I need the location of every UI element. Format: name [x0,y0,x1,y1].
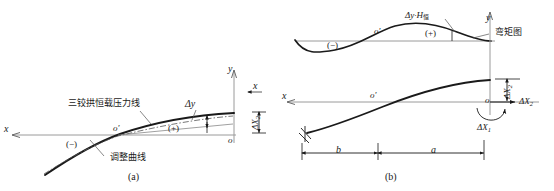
moment-product-subscript: 恒 [423,13,429,20]
moment-diagram-leader [473,34,489,38]
panel-b-delta-x1-text: ΔX [477,122,488,132]
left-support-symbol [299,126,311,143]
panel-b-delta-x1-subscript: 1 [488,126,491,133]
panel-b-caption: (b) [385,172,397,182]
moment-diagram-label: 弯矩图 [495,28,522,37]
adjust-curve-label: 调整曲线 [110,153,146,162]
delta-y-label: Δy [185,99,195,109]
panel-a-hinge-label: o' [113,124,119,133]
panel-a-delta-x2-subscript: 2 [254,116,261,119]
panel-b-arch-curve [307,80,490,133]
panel-b-delta-x2-text: ΔX [519,96,530,106]
panel-a-delta-x2-text: ΔX [250,119,260,130]
panel-a-x-axis-label-right: x [253,81,257,91]
panel-a-graphics [0,0,277,191]
moment-product-text: Δy·H [405,10,423,20]
panel-b-delta-x2-subscript: 2 [530,100,533,107]
panel-b-delta-x2-vertical-label: ΔX2 [503,85,513,99]
panel-b-plus-sign: (+) [425,29,436,38]
panel-b-delta-x2-label: ΔX2 [519,97,533,107]
panel-a-x-axis-label-left: x [4,124,8,134]
moment-product-label: Δy·H恒 [405,11,429,20]
panel-b-origin-label: o [485,96,490,105]
panel-a-caption: (a) [128,172,139,182]
panel-a-y-axis-label: y [228,64,232,74]
pressure-line-label: 三铰拱恒载压力线 [68,99,140,108]
panel-b-dx1-moment-arrow [477,108,505,120]
panel-a-origin-label: o [228,136,233,145]
delta-y-leader [192,110,196,120]
panel-b-minus-sign: (−) [327,41,338,50]
panel-a-minus-sign: (−) [66,140,77,149]
moment-diagram-curve [295,23,491,52]
pressure-line-leader [140,111,151,124]
panel-b-delta-x2-vertical-text: ΔX [502,88,512,99]
panel-b-hinge-bottom-label: o' [370,91,376,100]
panel-b-delta-x1-label: ΔX1 [477,123,491,133]
panel-b-delta-x2-vertical-subscript: 2 [506,85,513,88]
dim-b-label: b [336,145,341,155]
panel-a-plus-sign: (+) [168,124,179,133]
dim-a-label: a [431,145,436,155]
panel-b-y-axis-label: y [486,13,490,23]
figure-root: 三铰拱恒载压力线 调整曲线 Δy o' (+) (−) x x y o ΔX2 … [0,0,554,191]
panel-b-hinge-top-label: o' [374,27,380,36]
panel-a-delta-x2-label: ΔX2 [251,116,261,130]
panel-b-x-axis-label: x [282,91,286,101]
